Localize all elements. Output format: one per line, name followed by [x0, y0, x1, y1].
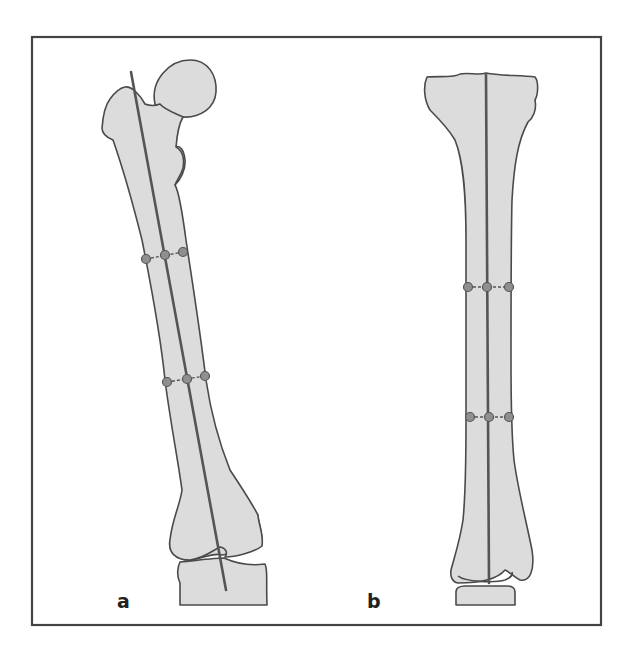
tibia-lower-marker-left [466, 413, 475, 422]
femur-lower-marker-left [163, 378, 172, 387]
femur-lower-marker-right [201, 372, 210, 381]
femur-upper-marker-left [142, 255, 151, 264]
tibia-upper-marker-left [464, 283, 473, 292]
talus [456, 586, 515, 605]
tibia-lower-marker-right [505, 413, 514, 422]
tibia-lower-marker-center [485, 413, 494, 422]
panel-a-femur: a [102, 60, 267, 612]
bone-axis-figure: a b [0, 0, 633, 647]
panel-b-tibia: b [367, 73, 538, 612]
panel-label-a: a [117, 590, 130, 612]
femur-upper-marker-right [179, 248, 188, 257]
femur-lower-marker-center [183, 375, 192, 384]
femur-upper-marker-center [161, 251, 170, 260]
tibia-upper-marker-center [483, 283, 492, 292]
tibia-bone [425, 73, 538, 583]
panel-label-b: b [367, 590, 381, 612]
tibia-upper-marker-right [505, 283, 514, 292]
